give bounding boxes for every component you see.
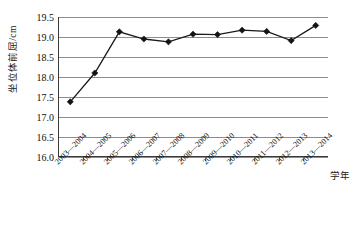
y-tick-label: 16.5 <box>37 132 55 143</box>
y-tick-label: 17.5 <box>37 92 55 103</box>
data-point-marker <box>165 39 171 45</box>
y-tick-label: 16.0 <box>37 152 55 163</box>
data-point-marker <box>239 27 245 33</box>
y-axis-tick-labels: 19.519.018.518.017.517.016.516.0 <box>18 17 54 157</box>
y-tick-label: 19.0 <box>37 32 55 43</box>
data-point-marker <box>288 38 294 44</box>
x-axis-title: 学年 <box>330 168 350 182</box>
x-axis-tick-labels: 2003—20042004—20052005—20062006—20072007… <box>58 160 338 224</box>
data-point-marker <box>214 32 220 38</box>
chart-figure: 坐位体前屈/cm 19.519.018.518.017.517.016.516.… <box>0 0 360 226</box>
y-tick-label: 18.0 <box>37 72 55 83</box>
data-point-marker <box>141 36 147 42</box>
data-point-marker <box>313 22 319 28</box>
data-point-marker <box>116 29 122 35</box>
data-point-marker <box>190 31 196 37</box>
y-axis-title: 坐位体前屈/cm <box>5 0 19 119</box>
series-markers <box>67 22 319 105</box>
y-tick-label: 17.0 <box>37 112 55 123</box>
data-point-marker <box>264 28 270 34</box>
y-tick-label: 19.5 <box>37 12 55 23</box>
data-series <box>58 17 328 157</box>
y-tick-label: 18.5 <box>37 52 55 63</box>
